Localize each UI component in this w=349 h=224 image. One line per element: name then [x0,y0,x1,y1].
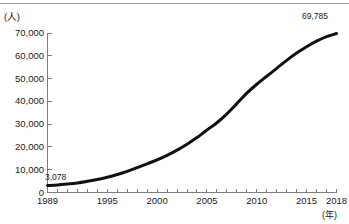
annotation-end-value: 69,785 [302,11,328,21]
y-axis-tick-marks [48,33,52,193]
plot-area [0,0,349,224]
chart-figure: (人) (年) 010,00020,00030,00040,00050,0006… [0,0,349,224]
annotation-start-value: 3,078 [45,172,66,182]
x-axis-tick-marks [48,189,337,193]
data-series-line [48,33,337,185]
